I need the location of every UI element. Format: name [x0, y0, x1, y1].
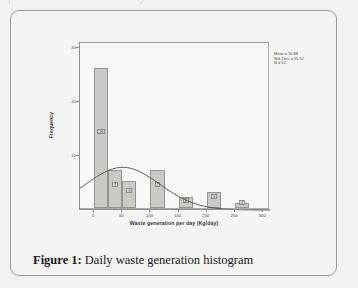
- statistics-annotation: Mean = 50.88 Std. Dev. = 65.52 N = 52: [274, 52, 304, 66]
- stat-n: N = 52: [274, 61, 304, 66]
- figure-frame: 26757231 102030 050100150200250300 Frequ…: [10, 10, 337, 276]
- x-axis-tick-label: 50: [119, 213, 124, 218]
- x-axis-tick-label: 250: [231, 213, 238, 218]
- figure-caption: Figure 1: Daily waste generation histogr…: [33, 253, 253, 268]
- figure-caption-text: Daily waste generation histogram: [85, 253, 253, 267]
- x-axis-tick: [149, 209, 150, 212]
- x-axis-tick-label: 0: [92, 213, 94, 218]
- histogram-chart: 26757231 102030 050100150200250300 Frequ…: [11, 17, 338, 232]
- y-axis-tick-label: 10: [71, 153, 76, 158]
- y-axis-tick: [76, 47, 79, 48]
- x-axis-tick-label: 150: [174, 213, 181, 218]
- x-axis-tick: [206, 209, 207, 212]
- x-axis-tick: [121, 209, 122, 212]
- scan-artifact-speckles: [0, 0, 358, 10]
- normal-distribution-curve: [80, 43, 270, 210]
- x-axis-tick-label: 100: [146, 213, 153, 218]
- y-axis-tick: [76, 155, 79, 156]
- y-axis-tick-label: 30: [71, 45, 76, 50]
- x-axis-tick: [93, 209, 94, 212]
- y-axis: [79, 42, 80, 209]
- x-axis-tick: [178, 209, 179, 212]
- plot-frame: 26757231: [79, 42, 269, 209]
- y-axis-title: Frequency: [48, 112, 54, 138]
- x-axis-tick-label: 300: [259, 213, 266, 218]
- document-page: 26757231 102030 050100150200250300 Frequ…: [0, 0, 358, 288]
- y-axis-tick: [76, 101, 79, 102]
- x-axis-title: Waste generation per day (Kg/day): [130, 220, 218, 226]
- figure-caption-label: Figure 1:: [33, 253, 82, 267]
- x-axis-tick: [262, 209, 263, 212]
- x-axis-tick: [234, 209, 235, 212]
- x-axis: [79, 209, 269, 210]
- y-axis-tick-label: 20: [71, 99, 76, 104]
- x-axis-tick-label: 200: [202, 213, 209, 218]
